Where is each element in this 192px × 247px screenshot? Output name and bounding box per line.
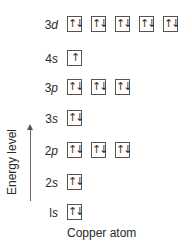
electron-box: ↑↓ bbox=[91, 142, 106, 158]
subshell-letter: s bbox=[52, 176, 58, 190]
orbital-label: 3d bbox=[45, 17, 58, 33]
subshell-letter: s bbox=[52, 52, 58, 66]
electron-box: ↑↓ bbox=[67, 174, 82, 190]
electron-box: ↑↓ bbox=[67, 16, 82, 32]
electron-box: ↑↓ bbox=[115, 142, 130, 158]
subshell-letter: p bbox=[51, 144, 58, 158]
electron-box: ↑↓ bbox=[115, 16, 130, 32]
electron-box: ↑↓ bbox=[67, 142, 82, 158]
orbital-label: 2s bbox=[45, 175, 58, 191]
electron-box: ↑↓ bbox=[91, 16, 106, 32]
orbital-label: 4s bbox=[45, 51, 58, 67]
electron-box: ↑↓ bbox=[67, 79, 82, 95]
shell-number: 3 bbox=[45, 112, 52, 126]
electron-box: ↑↓ bbox=[67, 110, 82, 126]
orbital-label: 3p bbox=[45, 80, 58, 96]
subshell-letter: s bbox=[52, 206, 58, 220]
orbital-row-1s: ls↑↓ bbox=[0, 204, 192, 222]
electron-box: ↑↓ bbox=[91, 79, 106, 95]
orbital-row-4s: 4s↑ bbox=[0, 50, 192, 68]
electron-box: ↑↓ bbox=[115, 79, 130, 95]
diagram-caption: Copper atom bbox=[67, 226, 136, 240]
electron-box: ↑ bbox=[67, 50, 82, 66]
subshell-letter: d bbox=[51, 18, 58, 32]
orbital-label: 3s bbox=[45, 111, 58, 127]
energy-arrow-icon bbox=[30, 126, 31, 201]
subshell-letter: s bbox=[52, 112, 58, 126]
orbital-row-3p: 3p↑↓↑↓↑↓ bbox=[0, 79, 192, 97]
subshell-letter: p bbox=[51, 81, 58, 95]
orbital-row-2s: 2s↑↓ bbox=[0, 174, 192, 192]
shell-number: 2 bbox=[45, 176, 52, 190]
shell-number: 4 bbox=[45, 52, 52, 66]
energy-level-label: Energy level bbox=[5, 128, 19, 196]
orbital-label: 2p bbox=[45, 143, 58, 159]
orbital-row-2p: 2p↑↓↑↓↑↓ bbox=[0, 142, 192, 160]
electron-box: ↑↓ bbox=[67, 204, 82, 220]
electron-box: ↑↓ bbox=[163, 16, 178, 32]
orbital-label: ls bbox=[49, 205, 58, 221]
orbital-row-3d: 3d↑↓↑↓↑↓↑↓↑↓ bbox=[0, 16, 192, 34]
electron-box: ↑↓ bbox=[139, 16, 154, 32]
